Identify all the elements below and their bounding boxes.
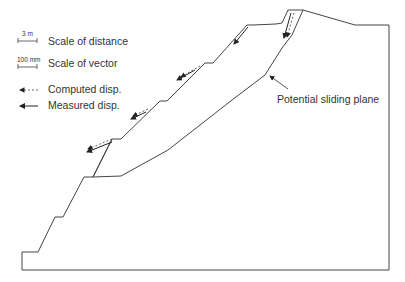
measured-vector (234, 27, 248, 44)
computed-legend-label: Computed disp. (48, 84, 122, 95)
slope-outline (22, 10, 389, 270)
measured-legend-label: Measured disp. (48, 100, 120, 111)
sliding-plane-toe-link (93, 139, 112, 177)
distance-scale-label: Scale of distance (48, 36, 128, 47)
vector-scale-label: Scale of vector (48, 58, 117, 69)
vector-scale-value: 100 mm (17, 57, 40, 64)
computed-vector (88, 139, 112, 149)
distance-scale-value: 3 m (22, 31, 33, 38)
computed-vectors (88, 13, 294, 149)
sliding-plane-label: Potential sliding plane (277, 94, 379, 105)
vector-scale-bar (18, 64, 37, 69)
annotation-arrow (270, 76, 288, 89)
distance-scale-bar (18, 38, 37, 43)
